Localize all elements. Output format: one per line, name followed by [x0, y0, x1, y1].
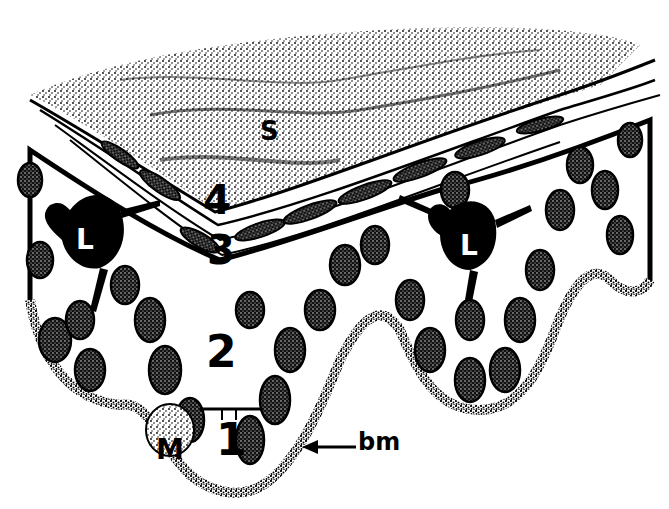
bm-arrow [302, 440, 356, 454]
label-layer-2: 2 [206, 330, 237, 374]
label-layer-4: 4 [203, 180, 231, 220]
label-basement-membrane: bm [358, 430, 400, 454]
label-langerhans-right: L [460, 232, 478, 260]
label-langerhans-left: L [76, 226, 94, 254]
label-stratum-corneum: S [260, 118, 279, 144]
epidermal-ridges [30, 120, 650, 493]
illustration-artwork [0, 0, 669, 509]
label-layer-3: 3 [207, 230, 235, 270]
epidermis-illustration: S 4 3 2 1 M L L bm [0, 0, 669, 509]
label-melanocyte-m: M [156, 436, 184, 464]
label-layer-1: 1 [216, 418, 247, 462]
